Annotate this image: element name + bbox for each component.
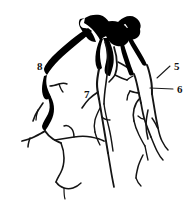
label-5: 5: [174, 60, 180, 72]
label-6: 6: [177, 83, 183, 95]
label-8: 8: [37, 60, 43, 72]
label-7: 7: [84, 88, 90, 100]
angiogram-figure: 5 6 7 8: [0, 0, 194, 206]
vessel-diagram: 5 6 7 8: [0, 0, 194, 206]
